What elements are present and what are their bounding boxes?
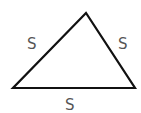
triangle-svg: S S S xyxy=(0,0,141,113)
left-side-label: S xyxy=(27,35,37,53)
triangle-diagram: S S S xyxy=(0,0,141,113)
right-side-label: S xyxy=(118,35,128,53)
base-label: S xyxy=(65,96,75,113)
